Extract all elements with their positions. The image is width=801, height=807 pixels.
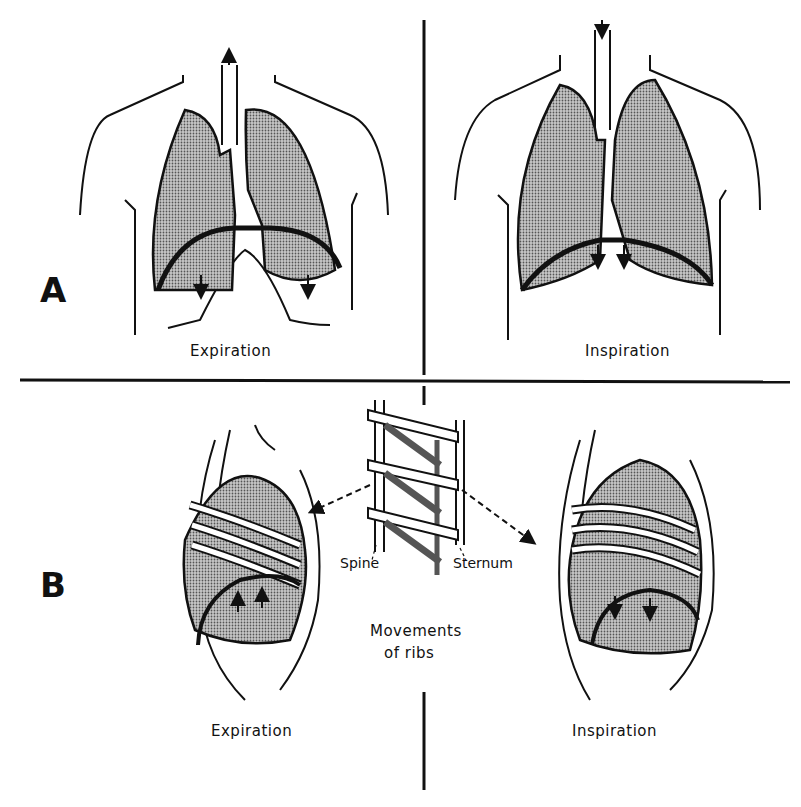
panel-b-label: B — [40, 565, 66, 605]
lungs-expiration-front — [80, 55, 388, 335]
lungs-inspiration-front — [455, 20, 760, 340]
panel-b-expiration-caption: Expiration — [211, 722, 292, 740]
panel-a-label: A — [40, 270, 66, 310]
spine-label: Spine — [340, 555, 379, 571]
respiration-diagram — [0, 0, 801, 807]
horizontal-divider — [20, 380, 790, 382]
lung-inspiration-lateral — [559, 430, 714, 700]
rib-movement-model — [315, 400, 530, 575]
of-ribs-caption: of ribs — [384, 644, 434, 662]
movements-caption: Movements — [370, 622, 462, 640]
lung-expiration-lateral — [184, 425, 320, 700]
panel-a-expiration-caption: Expiration — [190, 342, 271, 360]
sternum-label: Sternum — [453, 555, 513, 571]
panel-b-inspiration-caption: Inspiration — [572, 722, 657, 740]
panel-a-inspiration-caption: Inspiration — [585, 342, 670, 360]
